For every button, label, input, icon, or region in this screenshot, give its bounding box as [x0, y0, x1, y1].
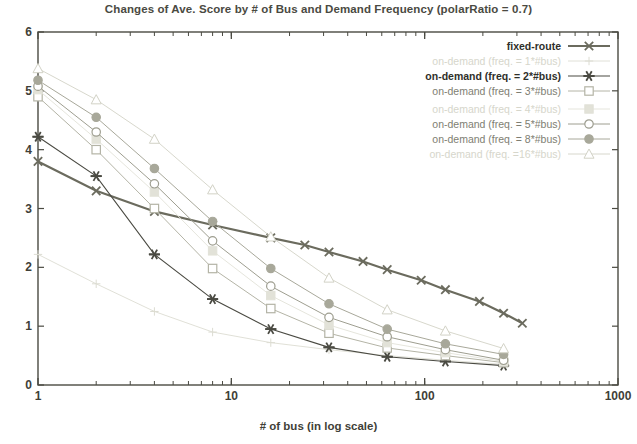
data-marker-filled-square — [267, 291, 275, 299]
data-marker-filled-square — [150, 188, 158, 196]
chart-legend: fixed-routeon-demand (freq. = 1*#bus)on-… — [398, 38, 612, 161]
data-marker-filled-circle — [92, 113, 100, 121]
legend-label: on-demand (freq. = 1*#bus) — [432, 55, 561, 67]
data-marker-open-square — [325, 329, 333, 337]
legend-item: on-demand (freq. = 2*#bus) — [398, 68, 612, 83]
legend-marker-filled-square-icon — [566, 102, 612, 116]
series-line — [38, 137, 504, 366]
data-marker-filled-circle — [383, 325, 391, 333]
legend-label: on-demand (freq. = 4*#bus) — [432, 103, 561, 115]
data-marker-plus — [34, 250, 42, 258]
data-marker-filled-circle — [208, 217, 216, 225]
data-marker-cross-x — [499, 309, 507, 317]
data-marker-filled-circle — [441, 340, 449, 348]
legend-label: fixed-route — [507, 40, 561, 52]
legend-label: on-demand (freq. = 2*#bus) — [425, 70, 561, 82]
data-marker-open-circle — [585, 119, 593, 127]
data-marker-filled-square — [208, 247, 216, 255]
data-marker-open-triangle — [33, 63, 43, 72]
y-tick-label: 0 — [25, 378, 32, 392]
data-marker-open-circle — [208, 237, 216, 245]
data-marker-filled-square — [585, 104, 593, 112]
legend-marker-cross-x-icon — [566, 39, 612, 53]
y-tick-label: 1 — [25, 319, 32, 333]
series-0 — [34, 157, 527, 327]
legend-marker-open-circle-icon — [566, 117, 612, 131]
data-marker-star — [265, 324, 276, 334]
data-marker-star — [91, 171, 102, 181]
data-marker-filled-circle — [150, 164, 158, 172]
legend-item: on-demand (freq. = 8*#bus) — [398, 131, 612, 146]
x-tick-label: 1000 — [605, 389, 632, 403]
data-marker-open-triangle — [499, 344, 509, 353]
y-tick-label: 5 — [25, 84, 32, 98]
legend-item: on-demand (freq. = 4*#bus) — [398, 101, 612, 116]
legend-label: on-demand (freq. = 5*#bus) — [432, 118, 561, 130]
legend-item: on-demand (freq. = 5*#bus) — [398, 116, 612, 131]
series-line — [38, 161, 522, 323]
x-tick-label: 1 — [35, 389, 42, 403]
data-marker-plus — [208, 328, 216, 336]
legend-label: on-demand (freq. = 8*#bus) — [432, 133, 561, 145]
y-tick-label: 4 — [25, 143, 32, 157]
data-marker-open-square — [208, 264, 216, 272]
chart-figure: Changes of Ave. Score by # of Bus and De… — [0, 0, 637, 444]
y-tick-label: 6 — [25, 25, 32, 39]
data-marker-open-square — [585, 86, 593, 94]
data-marker-open-triangle — [440, 326, 450, 335]
data-marker-filled-circle — [585, 134, 593, 142]
data-marker-open-circle — [325, 313, 333, 321]
data-marker-open-triangle — [324, 273, 334, 282]
data-marker-open-triangle — [382, 305, 392, 314]
legend-item: on-demand (freq. = 3*#bus) — [398, 83, 612, 98]
y-tick-label: 3 — [25, 202, 32, 216]
x-tick-label: 100 — [415, 389, 435, 403]
x-tick-label: 10 — [225, 389, 238, 403]
data-marker-open-square — [267, 304, 275, 312]
series-2 — [33, 132, 510, 370]
legend-marker-filled-circle-icon — [566, 132, 612, 146]
data-marker-open-triangle — [149, 134, 159, 143]
data-marker-open-circle — [267, 282, 275, 290]
data-marker-plus — [150, 307, 158, 315]
legend-item: on-demand (freq. =16*#bus) — [398, 146, 612, 161]
y-tick-label: 2 — [25, 260, 32, 274]
legend-item: on-demand (freq. = 1*#bus) — [398, 53, 612, 68]
legend-marker-star-icon — [566, 69, 612, 83]
data-marker-cross-x — [518, 319, 526, 327]
data-marker-star — [584, 71, 595, 81]
data-marker-filled-circle — [267, 264, 275, 272]
legend-item: fixed-route — [398, 38, 612, 53]
data-marker-open-square — [92, 145, 100, 153]
legend-marker-open-square-icon — [566, 84, 612, 98]
legend-marker-open-triangle-icon — [566, 147, 612, 161]
data-marker-open-square — [150, 204, 158, 212]
data-marker-open-triangle — [91, 95, 101, 104]
data-marker-open-circle — [150, 180, 158, 188]
data-marker-filled-circle — [325, 300, 333, 308]
data-marker-open-circle — [92, 128, 100, 136]
data-marker-plus — [92, 280, 100, 288]
legend-label: on-demand (freq. =16*#bus) — [429, 148, 561, 160]
legend-label: on-demand (freq. = 3*#bus) — [432, 85, 561, 97]
data-marker-plus — [585, 56, 593, 64]
data-marker-filled-circle — [34, 76, 42, 84]
legend-marker-plus-icon — [566, 54, 612, 68]
data-marker-plus — [267, 338, 275, 346]
